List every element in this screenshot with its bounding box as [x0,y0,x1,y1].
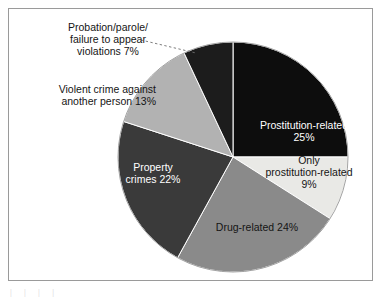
pie-label-probation: Probation/parole/ failure to appear viol… [44,22,172,58]
pie-label-drug-related: Drug-related 24% [196,222,318,234]
pie-label-prostitution-related: Prostitution-related 25% [236,120,372,144]
pie-label-only-prostitution-related: Only prostitution-related 9% [250,155,368,191]
pie-label-violent-crime: Violent crime against another person 13% [14,84,156,108]
scan-artifact-text: | | | | [10,287,160,298]
pie-label-property-crimes: Property crimes 22% [110,162,196,186]
screenshot-root: Prostitution-related 25% Only prostituti… [0,0,384,301]
